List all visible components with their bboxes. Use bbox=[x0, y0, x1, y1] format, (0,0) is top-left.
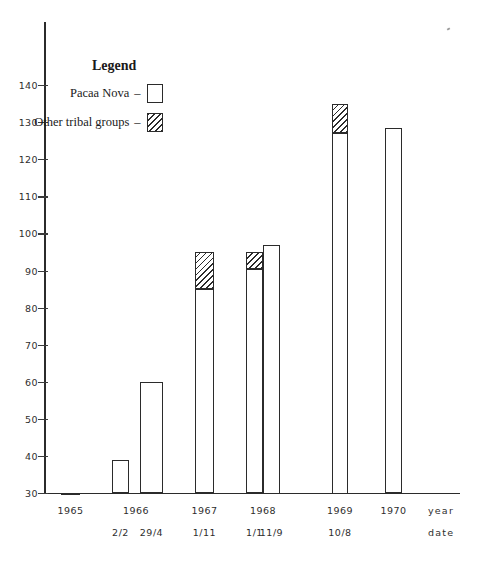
y-tick-90 bbox=[38, 271, 48, 272]
y-tick-100 bbox=[38, 233, 48, 234]
y-tick-label-120: 120 bbox=[8, 154, 38, 165]
x-axis-caption-date: date bbox=[428, 527, 454, 538]
bar-segment-pacaa-nova bbox=[385, 128, 402, 494]
bar-1966-2-2 bbox=[112, 460, 129, 494]
x-label-year-1966: 1966 bbox=[123, 505, 149, 516]
legend: Legend Pacaa Nova – Other tribal groups … bbox=[70, 58, 163, 132]
bar-segment-pacaa-nova bbox=[263, 245, 280, 494]
x-label-date-1-11: 1/11 bbox=[193, 527, 216, 538]
legend-item-pacaa-nova: Pacaa Nova – bbox=[70, 84, 163, 103]
y-tick-70 bbox=[38, 345, 48, 346]
bar-1968-1-1 bbox=[246, 252, 263, 494]
legend-label-other-tribal-groups: Other tribal groups bbox=[34, 115, 129, 130]
y-tick-60 bbox=[38, 382, 48, 383]
y-tick-140 bbox=[38, 85, 48, 86]
y-tick-110 bbox=[38, 196, 48, 197]
y-tick-label-50: 50 bbox=[8, 413, 38, 424]
legend-item-other-tribal-groups: Other tribal groups – bbox=[34, 113, 163, 132]
bar-segment-pacaa-nova bbox=[332, 133, 348, 493]
y-tick-label-90: 90 bbox=[8, 265, 38, 276]
bar-segment-other-tribal-groups bbox=[195, 252, 214, 289]
y-tick-label-40: 40 bbox=[8, 450, 38, 461]
x-label-date-11-9: 11/9 bbox=[260, 527, 283, 538]
bar-1969-10-8 bbox=[332, 104, 348, 494]
x-label-year-1969: 1969 bbox=[327, 505, 353, 516]
bar-segment-pacaa-nova bbox=[246, 269, 263, 494]
scan-speck bbox=[447, 27, 451, 30]
legend-swatch-empty-box bbox=[147, 84, 163, 103]
bar-1970 bbox=[385, 128, 402, 494]
y-tick-label-70: 70 bbox=[8, 339, 38, 350]
bar-segment-pacaa-nova bbox=[112, 460, 129, 494]
bar-1968-11-9 bbox=[263, 245, 280, 494]
legend-dash: – bbox=[134, 115, 140, 130]
legend-label-pacaa-nova: Pacaa Nova bbox=[70, 86, 129, 101]
x-label-year-1970: 1970 bbox=[380, 505, 406, 516]
y-tick-40 bbox=[38, 456, 48, 457]
bar-1967-1-11 bbox=[195, 252, 214, 494]
bar-segment-other-tribal-groups bbox=[332, 104, 348, 134]
x-label-date-10-8: 10/8 bbox=[328, 527, 351, 538]
y-tick-label-80: 80 bbox=[8, 302, 38, 313]
legend-dash: – bbox=[134, 86, 140, 101]
bar-chart-figure: 14013012011010090807060504030 196519662/… bbox=[0, 0, 481, 572]
legend-swatch-hatched-box bbox=[147, 113, 163, 132]
y-axis-line bbox=[44, 22, 46, 494]
bar-segment-pacaa-nova bbox=[61, 493, 80, 495]
bar-segment-other-tribal-groups bbox=[246, 252, 263, 269]
x-label-year-1965: 1965 bbox=[57, 505, 83, 516]
y-tick-label-110: 110 bbox=[8, 191, 38, 202]
y-tick-80 bbox=[38, 308, 48, 309]
bar-segment-pacaa-nova bbox=[195, 289, 214, 494]
x-label-date-29-4: 29/4 bbox=[140, 527, 163, 538]
y-tick-50 bbox=[38, 419, 48, 420]
y-tick-label-30: 30 bbox=[8, 488, 38, 499]
y-tick-120 bbox=[38, 159, 48, 160]
bar-segment-pacaa-nova bbox=[140, 382, 163, 494]
x-label-year-1968: 1968 bbox=[250, 505, 276, 516]
y-tick-30 bbox=[38, 493, 48, 494]
bar-1966-29-4 bbox=[140, 382, 163, 494]
x-label-year-1967: 1967 bbox=[191, 505, 217, 516]
y-tick-label-140: 140 bbox=[8, 80, 38, 91]
y-tick-label-60: 60 bbox=[8, 376, 38, 387]
y-tick-label-100: 100 bbox=[8, 228, 38, 239]
x-axis-caption-year: year bbox=[428, 505, 454, 516]
x-label-date-2-2: 2/2 bbox=[112, 527, 129, 538]
legend-title: Legend bbox=[92, 58, 163, 74]
